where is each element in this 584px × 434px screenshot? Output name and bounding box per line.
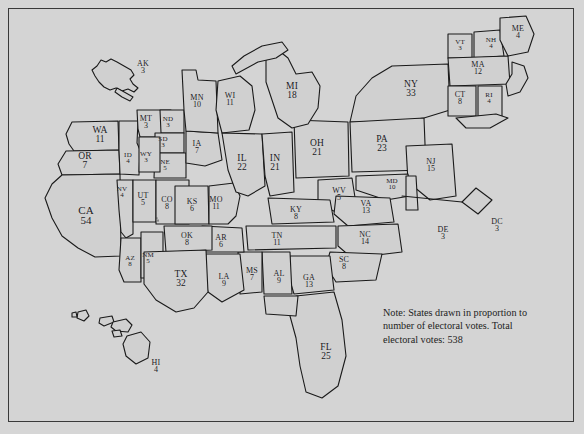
state-shape-wi [216,76,255,133]
state-shape-ky [268,198,334,224]
state-shape-la [204,254,244,302]
state-shape-az [119,238,141,282]
state-shape-al [262,252,292,294]
state-shape-mi [266,50,320,128]
state-shape-hi-niihau [72,312,77,317]
state-shape-id [119,121,140,175]
state-shape-fl [290,292,346,398]
state-shape-va [334,196,394,226]
state-shape-oh [294,120,349,178]
state-shape-me [500,16,534,56]
state-shape-wa [66,121,119,151]
state-shape-ct [448,86,476,116]
state-shape-de [406,176,418,210]
map-note: Note: States drawn in proportion to numb… [383,306,569,346]
map-geometry [0,0,584,434]
state-shape-ca [45,174,121,257]
state-shape-hi-bigisland [123,332,150,364]
state-shape-vt [448,34,472,58]
state-shape-hi-kauai [77,310,89,321]
state-shape-ks [175,186,209,224]
state-shape-ak [92,59,138,92]
note-line-1: Note: States drawn in proportion to [383,306,569,319]
state-shape-fl-panhandle [264,296,298,316]
state-shape-ma [448,56,510,86]
state-shape-ok [164,226,212,252]
note-line-3: electoral votes: 538 [383,333,569,346]
electoral-college-cartogram: AK3WA11OR7CA54MT3ND3SD3NE5ID4WY3NV4UT5CO… [0,0,584,434]
state-shape-mn [182,70,218,133]
state-shape-ut [133,180,156,222]
state-shape-in [262,132,294,196]
note-line-2: number of electoral votes. Total [383,319,569,332]
state-shape-ga [288,256,334,294]
state-shape-ia [186,131,222,166]
state-shape-nd [160,110,184,133]
state-shape-wy [139,137,160,172]
state-shape-or [58,150,120,175]
state-shape-dc [462,188,492,214]
state-shape-hi-lanai [112,330,122,337]
state-shape-ri [478,86,502,116]
state-shape-tn [246,226,336,250]
state-shape-ny [350,64,450,122]
state-shape-sc [326,252,382,282]
state-shape-tx [144,250,208,312]
